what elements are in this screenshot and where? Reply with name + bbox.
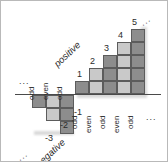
parity-label-odd-5: odd [127, 116, 135, 129]
figure-frame: 1 2 3 4 5 ... -1 -2 -3 ... odd even odd … [0, 0, 168, 162]
cell-pos-3-3 [103, 55, 117, 68]
ellipsis-top-right: ... [139, 15, 153, 28]
parity-label-neg-even-2: even [42, 83, 50, 100]
parity-label-even-2: even [85, 116, 93, 133]
cell-neg-2-2 [46, 108, 60, 121]
label-number-1: 1 [77, 70, 82, 79]
cell-pos-1-1 [75, 81, 89, 94]
ellipsis-bottom-right: ... [146, 113, 157, 122]
cell-pos-4-2 [117, 68, 131, 81]
staircase-diagram: 1 2 3 4 5 ... -1 -2 -3 ... odd even odd … [1, 1, 168, 162]
label-number-5: 5 [132, 18, 137, 27]
ellipsis-bottom-left: ... [16, 150, 30, 162]
label-number-2: 2 [90, 57, 95, 66]
parity-label-neg-odd-3: odd [28, 87, 36, 100]
cell-pos-5-2 [131, 68, 145, 81]
cell-pos-4-4 [117, 42, 131, 55]
cell-pos-2-1 [89, 81, 103, 94]
label-number-3: 3 [104, 44, 109, 53]
label-number-minus-2: -2 [60, 121, 68, 130]
label-number-minus-3: -3 [45, 134, 53, 143]
cell-pos-4-1 [117, 81, 131, 94]
cell-pos-3-1 [103, 81, 117, 94]
label-number-4: 4 [118, 31, 123, 40]
cell-pos-3-2 [103, 68, 117, 81]
parity-label-odd-3: odd [99, 116, 107, 129]
cell-pos-2-2 [89, 68, 103, 81]
parity-label-even-4: even [113, 116, 121, 133]
parity-label-neg-odd-1: odd [56, 87, 64, 100]
ellipsis-top-left: ... [19, 77, 30, 86]
cell-pos-5-3 [131, 55, 145, 68]
parity-label-odd-1: odd [71, 116, 79, 129]
cell-pos-4-3 [117, 55, 131, 68]
label-positive: positive [52, 40, 82, 69]
cell-pos-5-5 [131, 29, 145, 42]
cell-pos-5-1 [131, 81, 145, 94]
cell-pos-5-4 [131, 42, 145, 55]
